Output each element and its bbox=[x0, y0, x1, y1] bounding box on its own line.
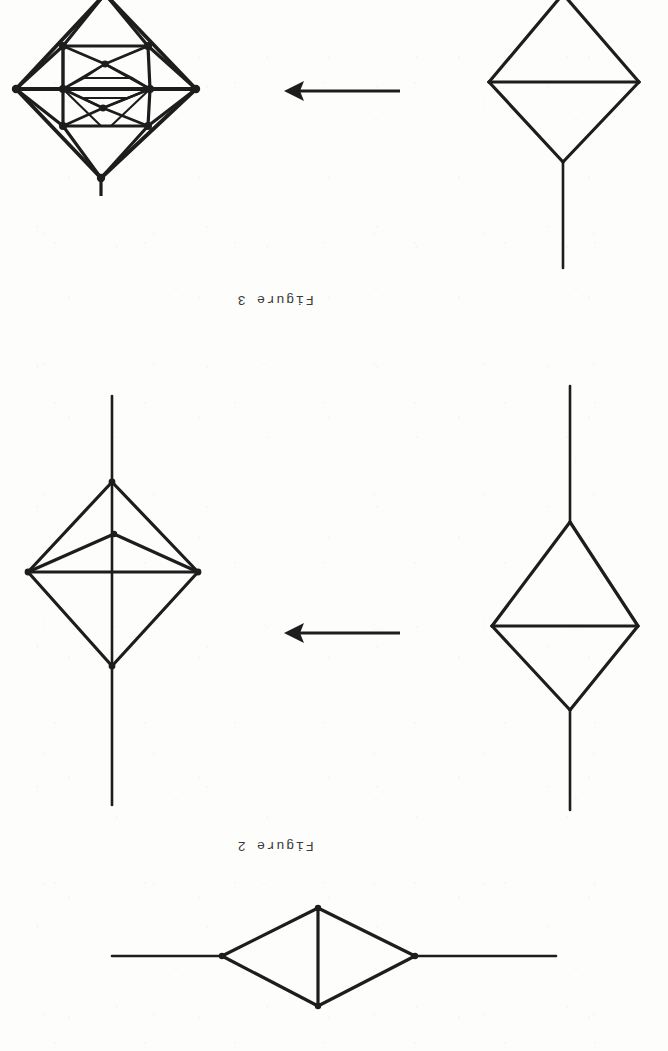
figure-2-result-svg bbox=[18, 390, 238, 810]
figure-2-arrow bbox=[278, 616, 408, 650]
figure-3-result-svg bbox=[0, 0, 220, 196]
arrow-left-icon bbox=[278, 616, 408, 650]
scanned-page: Figure 3 bbox=[0, 0, 668, 1051]
figure-2-caption: Figure 2 bbox=[236, 838, 314, 853]
figure-2-source-svg bbox=[470, 382, 660, 812]
arrow-left-icon bbox=[278, 74, 408, 108]
figure-3-source-svg bbox=[475, 0, 655, 290]
figure-2-result-diagram bbox=[18, 390, 238, 810]
figure-3-arrow bbox=[278, 74, 408, 108]
figure-3-source-diagram bbox=[475, 0, 655, 290]
figure-1-graph-diagram bbox=[110, 890, 560, 1020]
figure-3-caption: Figure 3 bbox=[236, 292, 314, 307]
figure-2-source-diagram bbox=[470, 382, 660, 812]
figure-3-result-diagram bbox=[0, 0, 220, 196]
figure-1-graph-svg bbox=[110, 890, 560, 1020]
